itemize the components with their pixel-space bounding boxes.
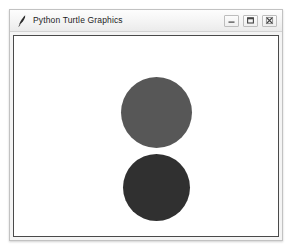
maximize-button[interactable] [243, 15, 258, 27]
turtle-drawing-canvas[interactable] [13, 35, 279, 237]
screenshot-root: Python Turtle Graphics [0, 0, 292, 250]
window-title: Python Turtle Graphics [33, 16, 123, 25]
minimize-button[interactable] [224, 15, 239, 27]
window-titlebar[interactable]: Python Turtle Graphics [10, 10, 282, 32]
lower-circle [123, 154, 190, 221]
window-controls [224, 15, 277, 27]
upper-circle [121, 77, 192, 148]
canvas-container [13, 35, 279, 237]
python-feather-icon [16, 14, 29, 28]
close-button[interactable] [262, 15, 277, 27]
turtle-graphics-window: Python Turtle Graphics [9, 9, 283, 241]
